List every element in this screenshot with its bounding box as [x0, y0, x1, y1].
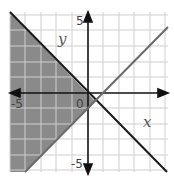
coordinate-plane: 5 -5 -5 0 y x	[0, 0, 174, 183]
y-tick-neg5: -5	[71, 157, 83, 171]
x-axis-label: x	[143, 113, 152, 131]
y-tick-5: 5	[76, 14, 84, 28]
y-axis-up-arrow-icon	[84, 12, 92, 22]
origin-label: 0	[76, 97, 84, 111]
y-axis-label: y	[57, 30, 67, 48]
y-axis-down-arrow-icon	[84, 164, 92, 174]
x-axis-right-arrow-icon	[158, 89, 168, 97]
shaded-region	[10, 12, 95, 172]
x-tick-neg5: -5	[11, 97, 23, 111]
